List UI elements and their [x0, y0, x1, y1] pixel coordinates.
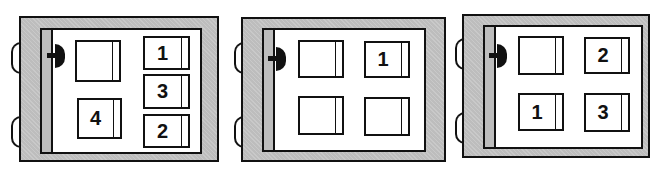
photo-card	[518, 36, 564, 75]
photo-card: 4	[77, 98, 122, 139]
photo-card: 2	[584, 37, 630, 74]
page-spine	[485, 27, 496, 147]
page-spine	[42, 30, 53, 152]
photo-card: 3	[143, 74, 190, 109]
photo-card: 1	[518, 93, 564, 131]
photo-card	[298, 96, 344, 135]
photo-card	[364, 97, 410, 136]
photo-card	[298, 40, 344, 78]
photo-card: 1	[143, 36, 190, 70]
photo-card: 2	[143, 114, 190, 148]
photo-card	[75, 40, 121, 82]
page-spine	[264, 30, 275, 150]
photo-card: 1	[364, 41, 410, 78]
photo-card: 3	[584, 93, 630, 132]
